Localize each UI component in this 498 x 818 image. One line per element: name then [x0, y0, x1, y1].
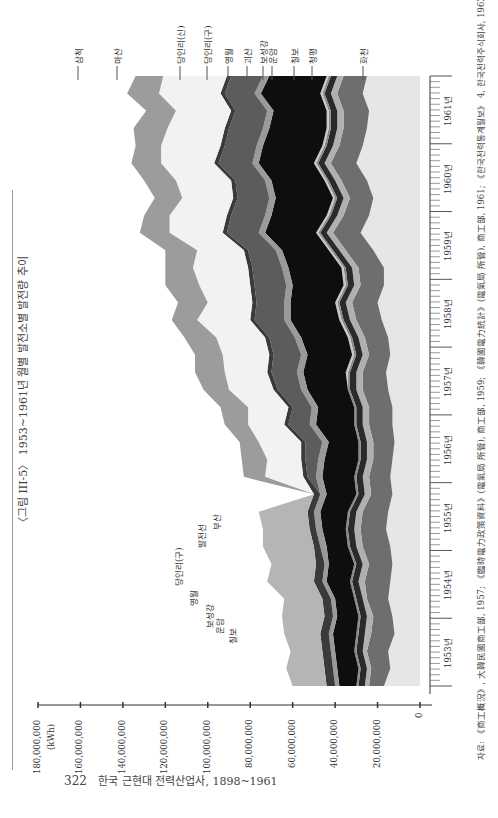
year-label: 1955년 — [441, 503, 453, 533]
year-label: 1957년 — [441, 367, 453, 397]
series-label: 영월 — [222, 48, 234, 64]
series-label: 당인리(신) — [174, 25, 186, 64]
series-label: 마산 — [111, 48, 123, 64]
series-label: 발전선 — [195, 524, 207, 548]
year-label: 1961년 — [441, 96, 453, 126]
series-label: 당인리(구) — [201, 25, 213, 64]
y-tick-label: 20,000,000 — [372, 719, 382, 768]
page-footer: 322 한국 근현대 전력산업사, 1898~1961 — [64, 772, 278, 788]
year-label: 1956년 — [441, 435, 453, 465]
series-label: 칠보 — [288, 48, 300, 64]
y-tick-label: 40,000,000 — [329, 719, 339, 768]
page-number: 322 — [64, 774, 87, 788]
series-label: 괴산 — [241, 48, 253, 64]
chart-areas — [127, 76, 420, 686]
series-label: 영월 — [187, 590, 199, 606]
year-label: 1959년 — [441, 232, 453, 262]
series-label: 운암 — [266, 48, 278, 64]
series-label: 삼척 — [72, 48, 84, 64]
y-tick-label: 80,000,000 — [244, 719, 254, 768]
year-label: 1954년 — [441, 571, 453, 601]
year-label: 1960년 — [441, 164, 453, 194]
series-label: 부산 — [210, 514, 222, 530]
y-tick-label: 160,000,000 — [74, 720, 84, 774]
series-label: 청평 — [306, 48, 318, 64]
y-tick-label: 180,000,000 — [32, 720, 42, 774]
year-label: 1953년 — [441, 638, 453, 668]
y-tick-label: 0 — [414, 712, 424, 717]
series-label: 칠보 — [226, 628, 238, 644]
year-label: 1958년 — [441, 300, 453, 330]
stacked-area-chart — [0, 0, 498, 818]
y-tick-label: 60,000,000 — [287, 719, 297, 768]
series-label: 당인리(구) — [172, 547, 184, 586]
y-tick-label: 100,000,000 — [202, 720, 212, 774]
y-tick-label: 120,000,000 — [159, 720, 169, 774]
book-title: 한국 근현대 전력산업사, 1898~1961 — [98, 775, 277, 788]
y-tick-label: 140,000,000 — [117, 720, 127, 774]
y-unit-label: (kWh) — [46, 724, 56, 750]
series-label: 화천 — [357, 48, 369, 64]
series-label: 운암 — [213, 618, 225, 634]
source-note: 자료: 《商工概況》, 大韓民國商工部, 1957; 《臨時電力政策資料》(電氣… — [474, 0, 486, 760]
